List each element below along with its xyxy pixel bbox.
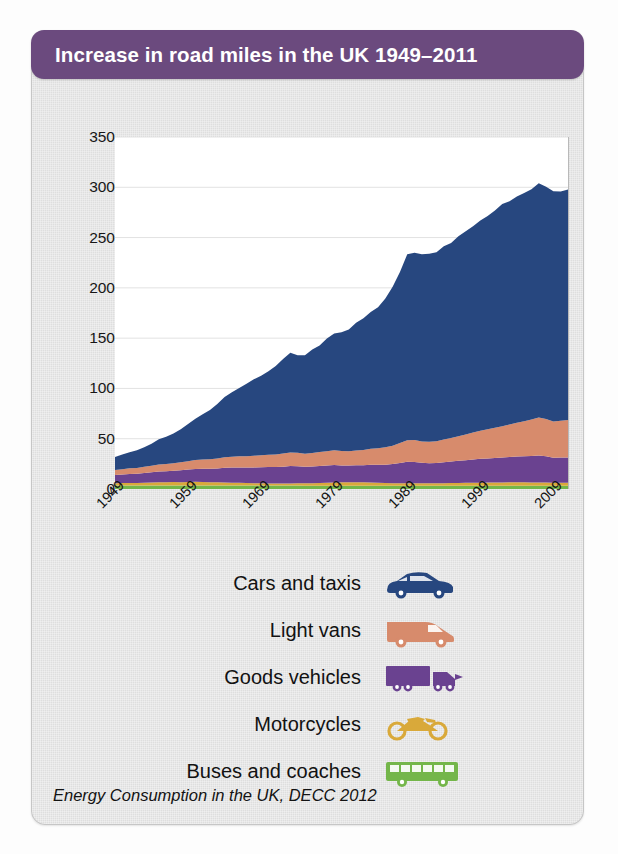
title-banner: Increase in road miles in the UK 1949–20… xyxy=(31,30,584,79)
source-caption: Energy Consumption in the UK, DECC 2012 xyxy=(53,786,377,805)
legend-label: Cars and taxis xyxy=(31,572,381,595)
legend-label: Motorcycles xyxy=(31,713,381,736)
legend: Cars and taxisLight vansGoods vehiclesMo… xyxy=(31,560,582,795)
chart-area: Billion vehicle miles 050100150200250300… xyxy=(31,96,582,576)
legend-item-light-vans: Light vans xyxy=(31,607,582,654)
legend-swatch xyxy=(381,658,473,698)
x-axis-ticks: 1949195919691979198919992009 xyxy=(115,494,568,564)
legend-swatch xyxy=(381,564,473,604)
y-axis-ticks: 050100150200250300350 xyxy=(68,96,115,522)
legend-swatch xyxy=(381,611,473,651)
legend-item-goods-vehicles: Goods vehicles xyxy=(31,654,582,701)
legend-label: Buses and coaches xyxy=(31,760,381,783)
page-title: Increase in road miles in the UK 1949–20… xyxy=(31,43,477,67)
legend-label: Light vans xyxy=(31,619,381,642)
bus-icon xyxy=(381,754,467,790)
legend-item-cars-and-taxis: Cars and taxis xyxy=(31,560,582,607)
legend-swatch xyxy=(381,752,473,792)
y-tick-200: 200 xyxy=(71,280,115,296)
legend-label: Goods vehicles xyxy=(31,666,381,689)
y-tick-250: 250 xyxy=(71,230,115,246)
legend-swatch xyxy=(381,705,473,745)
car-icon xyxy=(381,566,467,602)
y-tick-100: 100 xyxy=(71,380,115,396)
y-tick-300: 300 xyxy=(71,179,115,195)
van-icon xyxy=(381,613,467,649)
card-content: Billion vehicle miles 050100150200250300… xyxy=(31,60,582,823)
y-tick-50: 50 xyxy=(71,431,115,447)
figure-page: Increase in road miles in the UK 1949–20… xyxy=(0,0,618,854)
plot-canvas xyxy=(115,137,569,489)
motorcycle-icon xyxy=(381,707,467,743)
truck-icon xyxy=(381,660,467,696)
y-tick-150: 150 xyxy=(71,330,115,346)
y-tick-350: 350 xyxy=(71,129,115,145)
stacked-area-svg xyxy=(115,137,568,489)
legend-item-motorcycles: Motorcycles xyxy=(31,701,582,748)
